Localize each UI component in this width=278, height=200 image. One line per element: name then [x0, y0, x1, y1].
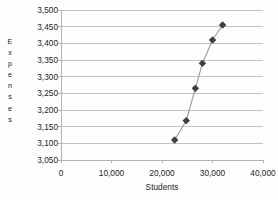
x-axis-tick-labels: 010,00020,00030,00040,000 — [0, 0, 278, 200]
x-axis-tick-label: 20,000 — [149, 169, 174, 177]
x-axis-title: Students — [61, 183, 263, 191]
x-axis-tick-label: 0 — [59, 169, 64, 177]
expenses-vs-students-chart: E x p e n s e s 3,0503,1003,1503,2003,25… — [0, 0, 278, 200]
x-axis-tick-label: 30,000 — [200, 169, 225, 177]
x-axis-tick-label: 40,000 — [250, 169, 275, 177]
x-axis-tick-label: 10,000 — [99, 169, 124, 177]
